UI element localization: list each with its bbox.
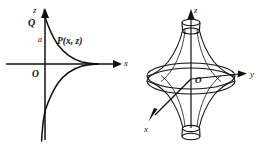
z-axis-2d bbox=[41, 8, 49, 140]
curve-2d-svg: z Q a P(x, z) O x bbox=[0, 0, 133, 148]
figure-2d-curve: z Q a P(x, z) O x bbox=[0, 0, 133, 148]
lower-funnel-inner-left bbox=[161, 76, 185, 128]
x-axis-2d bbox=[6, 60, 122, 68]
curve-lower-branch bbox=[45, 64, 98, 111]
point-p-label: P(x, z) bbox=[57, 36, 82, 47]
segment-a-label: a bbox=[38, 35, 42, 44]
y-axis-label-3d: y bbox=[249, 69, 254, 79]
upper-funnel-inner-right bbox=[197, 30, 221, 82]
z-axis-label-3d: z bbox=[193, 5, 198, 15]
upper-funnel-inner-left bbox=[161, 30, 185, 82]
point-q-label: Q bbox=[28, 17, 35, 28]
x-axis-label-2d: x bbox=[123, 58, 128, 68]
origin-label-3d: O bbox=[195, 75, 202, 85]
surface-3d-svg: z y x O bbox=[133, 0, 266, 148]
x-axis-label-3d: x bbox=[143, 124, 148, 134]
figure-3d-surface: z y x O bbox=[133, 0, 266, 148]
x-axis-3d bbox=[149, 79, 192, 122]
curve-upper-tail bbox=[44, 10, 45, 17]
z-axis-label-2d: z bbox=[32, 5, 37, 15]
figure-pair-container: z Q a P(x, z) O x bbox=[0, 0, 266, 148]
origin-label-2d: O bbox=[32, 69, 39, 79]
